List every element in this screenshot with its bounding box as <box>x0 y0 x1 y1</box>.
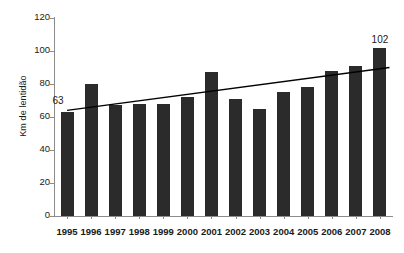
x-tick-mark <box>284 216 285 219</box>
bar-series <box>55 18 392 216</box>
x-tick-label: 2008 <box>365 226 395 237</box>
bar <box>301 87 314 216</box>
y-tick-mark <box>49 18 54 19</box>
y-tick-mark <box>49 150 54 151</box>
x-tick-mark <box>163 216 164 219</box>
x-tick-mark <box>67 216 68 219</box>
y-tick-label: 60 <box>4 111 50 121</box>
bar <box>229 99 242 216</box>
bar <box>181 97 194 216</box>
bar <box>349 66 362 216</box>
y-tick-label: 100 <box>4 45 50 55</box>
bar <box>205 72 218 216</box>
x-tick-mark <box>211 216 212 219</box>
x-axis-tick-labels: 1995199619971998199920002001200220032004… <box>55 226 392 242</box>
x-tick-mark <box>91 216 92 219</box>
plot-area <box>55 18 392 216</box>
y-tick-label: 0 <box>4 210 50 220</box>
y-tick-label: 20 <box>4 177 50 187</box>
x-tick-mark <box>236 216 237 219</box>
y-tick-label: 80 <box>4 78 50 88</box>
bar <box>133 104 146 216</box>
bar <box>61 112 74 216</box>
bar <box>277 92 290 216</box>
x-tick-mark <box>308 216 309 219</box>
y-tick-mark <box>49 51 54 52</box>
x-axis-line <box>54 216 393 217</box>
bar <box>253 109 266 216</box>
bar <box>109 105 122 216</box>
bar <box>373 48 386 216</box>
x-tick-mark <box>187 216 188 219</box>
y-axis-tick-labels: 020406080100120 <box>0 0 50 253</box>
x-tick-mark <box>115 216 116 219</box>
y-tick-mark <box>49 84 54 85</box>
y-tick-label: 120 <box>4 12 50 22</box>
x-tick-mark <box>332 216 333 219</box>
bar <box>325 71 338 216</box>
bar <box>157 104 170 216</box>
value-label: 63 <box>43 95 73 106</box>
y-tick-label: 40 <box>4 144 50 154</box>
x-tick-mark <box>139 216 140 219</box>
bar <box>85 84 98 216</box>
x-tick-mark <box>356 216 357 219</box>
x-tick-mark <box>260 216 261 219</box>
y-tick-mark <box>49 117 54 118</box>
value-label: 102 <box>365 34 395 45</box>
y-tick-mark <box>49 183 54 184</box>
bar-chart: Km de lentidão 020406080100120 63102 199… <box>0 0 404 253</box>
x-tick-mark <box>380 216 381 219</box>
y-tick-mark <box>49 216 54 217</box>
